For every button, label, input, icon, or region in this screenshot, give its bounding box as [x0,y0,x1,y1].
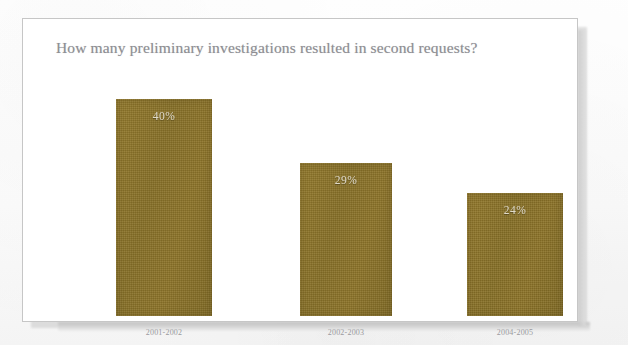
bar-value-label-2001-2002: 40% [116,110,212,122]
scan-right-shadow-band [578,30,586,326]
bar-value-label-2004-2005: 24% [467,204,563,216]
bar-group-2002-2003: 29% 2002-2003 [300,19,392,323]
chart-slide-frame: How many preliminary investigations resu… [22,18,578,322]
bar-2001-2002[interactable]: 40% [116,99,212,316]
bar-category-label-2004-2005: 2004-2005 [467,328,563,337]
bar-2002-2003[interactable]: 29% [300,163,392,316]
bar-group-2004-2005: 24% 2004-2005 [467,19,563,323]
bar-category-label-2001-2002: 2001-2002 [116,328,212,337]
bar-group-2001-2002: 40% 2001-2002 [116,19,212,323]
bar-category-label-2002-2003: 2002-2003 [300,328,392,337]
bar-chart-plot-area: 40% 2001-2002 29% 2002-2003 24% 2004-200… [23,19,579,323]
bar-value-label-2002-2003: 29% [300,174,392,186]
bar-2004-2005[interactable]: 24% [467,193,563,316]
